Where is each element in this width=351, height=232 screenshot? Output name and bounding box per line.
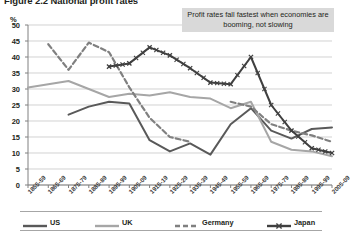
legend-swatch-germany xyxy=(174,217,200,227)
y-axis-tick-label: 35 xyxy=(2,69,20,78)
legend-swatch-japan xyxy=(266,217,292,227)
legend-label: UK xyxy=(122,218,133,227)
y-axis-tick-label: 45 xyxy=(2,37,20,46)
legend-label: Germany xyxy=(202,218,234,227)
y-axis-tick-label: 15 xyxy=(2,133,20,142)
y-axis-tick-label: 40 xyxy=(2,53,20,62)
legend-swatch-us xyxy=(22,217,48,227)
chart-legend: USUKGermanyJapan xyxy=(22,214,322,230)
legend-item-germany[interactable]: Germany xyxy=(174,217,266,227)
y-axis-tick-label: 20 xyxy=(2,117,20,126)
legend-swatch-uk xyxy=(94,217,120,227)
y-axis-tick-label: 25 xyxy=(2,101,20,110)
legend-label: US xyxy=(50,218,60,227)
y-axis-tick-label: 30 xyxy=(2,85,20,94)
series-line-uk xyxy=(28,81,332,156)
legend-item-us[interactable]: US xyxy=(22,217,94,227)
legend-item-japan[interactable]: Japan xyxy=(266,217,322,227)
y-axis-tick-label: 5 xyxy=(2,165,20,174)
y-axis-tick-label: 50 xyxy=(2,21,20,30)
legend-divider-top xyxy=(20,211,322,212)
annotation-callout: Profit rates fall fastest when economies… xyxy=(182,8,334,32)
legend-label: Japan xyxy=(294,218,315,227)
y-axis-tick-label: 0 xyxy=(2,181,20,190)
legend-item-uk[interactable]: UK xyxy=(94,217,174,227)
series-line-germany xyxy=(231,102,332,142)
series-line-us xyxy=(69,102,332,155)
y-axis-tick-label: 10 xyxy=(2,149,20,158)
